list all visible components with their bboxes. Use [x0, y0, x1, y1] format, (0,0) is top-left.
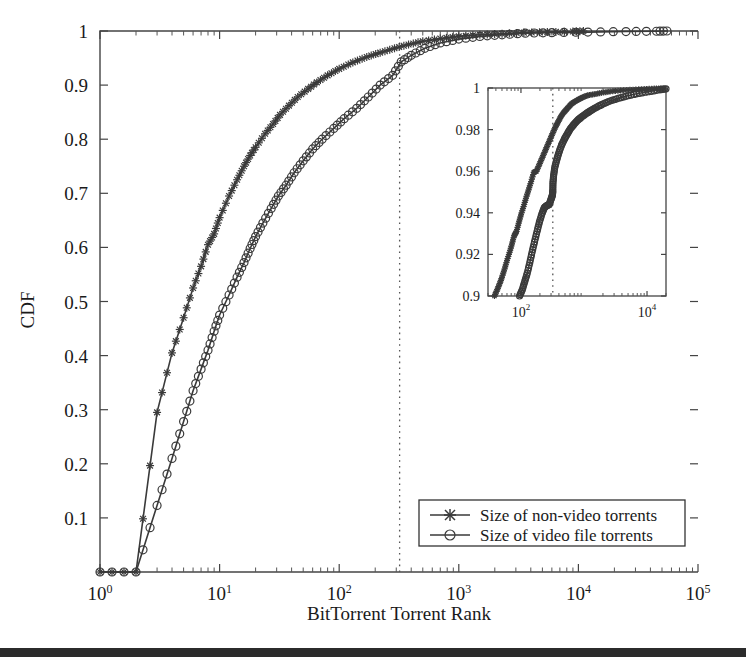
marker-star-icon — [176, 325, 184, 333]
legend-label-video: Size of video file torrents — [480, 526, 653, 545]
y-tick-label: 0.7 — [64, 183, 88, 204]
marker-star-icon — [153, 408, 161, 416]
marker-star-icon — [139, 515, 147, 523]
marker-star-icon — [189, 284, 197, 292]
marker-star-icon — [192, 277, 200, 285]
marker-star-icon — [168, 349, 176, 357]
y-tick-label: 1 — [79, 21, 89, 42]
marker-star-icon — [222, 199, 230, 207]
marker-star-icon — [194, 270, 202, 278]
legend: Size of non-video torrents Size of video… — [419, 500, 685, 546]
inset-y-tick-label: 0.9 — [463, 289, 481, 304]
marker-star-icon — [199, 255, 207, 263]
marker-star-icon — [180, 314, 188, 322]
marker-star-icon — [146, 462, 154, 470]
marker-star-icon — [197, 262, 205, 270]
inset-y-tick-label: 0.98 — [456, 123, 481, 138]
marker-star-icon — [163, 369, 171, 377]
inset-y-tick-label: 0.94 — [456, 206, 481, 221]
marker-star-icon — [186, 294, 194, 302]
y-tick-label: 0.1 — [64, 508, 88, 529]
y-axis-title: CDF — [17, 292, 38, 329]
y-tick-label: 0.8 — [64, 129, 88, 150]
cdf-plot-svg: 100101102103104105 0.10.20.30.40.50.60.7… — [0, 0, 746, 663]
inset-axes: 102104 0.90.920.940.960.981 — [456, 81, 670, 320]
x-axis-title: BitTorrent Torrent Rank — [307, 603, 491, 624]
marker-star-icon — [216, 214, 224, 222]
cdf-figure: 100101102103104105 0.10.20.30.40.50.60.7… — [0, 0, 746, 663]
marker-star-icon — [219, 206, 227, 214]
y-tick-label: 0.9 — [64, 75, 88, 96]
y-tick-label: 0.5 — [64, 292, 88, 313]
marker-star-icon — [183, 304, 191, 312]
scan-artifact-bar — [0, 648, 746, 657]
y-tick-label: 0.2 — [64, 454, 88, 475]
marker-star-icon — [202, 248, 210, 256]
y-tick-label: 0.6 — [64, 237, 88, 258]
legend-label-non-video: Size of non-video torrents — [480, 506, 657, 525]
inset-y-tick-label: 0.92 — [456, 247, 481, 262]
legend-marker-star-icon — [444, 509, 456, 521]
y-tick-label: 0.4 — [64, 346, 88, 367]
inset-y-tick-label: 0.96 — [456, 164, 481, 179]
inset-y-tick-label: 1 — [473, 81, 480, 96]
marker-star-icon — [158, 389, 166, 397]
marker-star-icon — [172, 337, 180, 345]
y-tick-label: 0.3 — [64, 400, 88, 421]
